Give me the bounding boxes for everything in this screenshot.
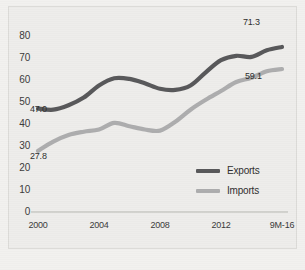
y-axis-tick-30: 30 [8, 141, 30, 151]
data-label-imports-end: 59.1 [245, 72, 262, 81]
legend-label-imports: Imports [227, 186, 259, 196]
y-axis-tick-70: 70 [8, 53, 30, 63]
chart-screenshot: 80706050403020100 20002004200820129M-16 … [0, 0, 305, 270]
legend-swatch-imports-icon [196, 189, 220, 193]
legend-item-imports[interactable]: Imports [196, 186, 259, 196]
x-axis-tick-2008: 2008 [138, 220, 182, 230]
data-label-exports-start: 47.0 [30, 105, 47, 114]
imports-line [38, 69, 282, 151]
y-axis-tick-40: 40 [8, 119, 30, 129]
legend-swatch-exports-icon [196, 169, 220, 173]
legend-item-exports[interactable]: Exports [196, 166, 260, 176]
y-axis-tick-60: 60 [8, 75, 30, 85]
y-axis-tick-10: 10 [8, 185, 30, 195]
x-axis-tick-2004: 2004 [77, 220, 121, 230]
legend-label-exports: Exports [227, 166, 260, 176]
y-axis-tick-20: 20 [8, 163, 30, 173]
x-axis-tick-9M-16: 9M-16 [260, 220, 304, 230]
data-label-exports-end: 71.3 [243, 18, 260, 27]
y-axis-tick-50: 50 [8, 97, 30, 107]
y-axis-tick-0: 0 [8, 207, 30, 217]
x-axis-tick-2012: 2012 [199, 220, 243, 230]
y-axis-tick-80: 80 [8, 31, 30, 41]
x-axis-tick-2000: 2000 [16, 220, 60, 230]
data-label-imports-start: 27.8 [30, 152, 47, 161]
